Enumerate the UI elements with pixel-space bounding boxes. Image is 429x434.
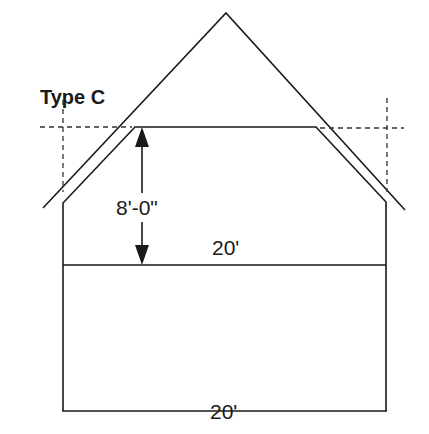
room-width-label: 20' [212,236,239,260]
outer-roof-line [43,13,405,210]
ceiling-height-label: 8'-0" [114,196,160,220]
arrow-down-icon [135,245,149,265]
diagram-title: Type C [40,86,105,109]
building-width-label: 20' [210,400,237,424]
arrow-up-icon [135,127,149,147]
diagram-canvas [0,0,429,434]
attic-room-outline [63,127,386,411]
